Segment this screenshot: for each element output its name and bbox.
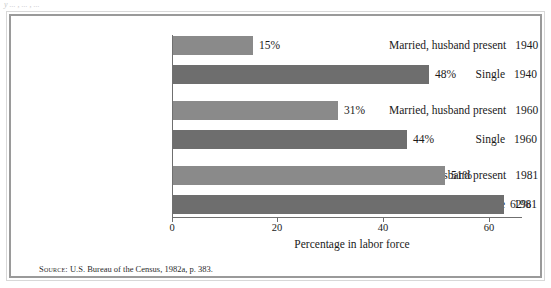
bar-single-1940 — [173, 65, 429, 84]
bar-value-married-1960: 31% — [338, 101, 365, 120]
top-edge-bleed-text: y ... , ... , ... — [0, 0, 200, 9]
x-tick-label-40: 40 — [368, 222, 398, 234]
table-row: Married, husband present1960 31% — [11, 101, 540, 120]
row-year-label: 1940 — [515, 36, 541, 55]
table-row: Single1981 62% — [11, 195, 540, 214]
row-year-label: 1940 — [514, 65, 540, 84]
source-label: Source: — [39, 264, 68, 274]
x-axis-title: Percentage in labor force — [207, 238, 497, 250]
figure-frame: Married, husband present1940 15% Single1… — [6, 11, 545, 281]
table-row: Single1960 44% — [11, 130, 540, 149]
bar-married-1981 — [173, 166, 445, 185]
row-label: Married, husband present1940 — [389, 36, 540, 55]
source-citation: U.S. Bureau of the Census, 1982a, p. 383… — [70, 264, 213, 274]
x-tick-label-0: 0 — [157, 222, 187, 234]
bar-value-single-1940: 48% — [429, 65, 456, 84]
source-note: Source: U.S. Bureau of the Census, 1982a… — [39, 264, 213, 274]
y-axis-line — [172, 35, 173, 217]
x-axis-line — [172, 217, 522, 218]
row-category-label: Married, husband present — [389, 101, 506, 120]
row-year-label: 1960 — [515, 101, 541, 120]
bar-single-1981 — [173, 195, 504, 214]
row-label: Married, husband present1960 — [389, 101, 540, 120]
figure-frame-inner: Married, husband present1940 15% Single1… — [9, 14, 542, 278]
row-category-label: Single — [476, 130, 505, 149]
bar-value-married-1981: 51% — [445, 166, 472, 185]
bar-married-1940 — [173, 36, 253, 55]
row-year-label: 1981 — [515, 166, 541, 185]
table-row: Married, husband present1981 51% — [11, 166, 540, 185]
table-row: Single1940 48% — [11, 65, 540, 84]
bar-value-married-1940: 15% — [253, 36, 280, 55]
row-year-label: 1960 — [514, 130, 540, 149]
row-category-label: Single — [476, 65, 505, 84]
bar-married-1960 — [173, 101, 338, 120]
bar-chart-plot: Married, husband present1940 15% Single1… — [11, 16, 540, 276]
row-category-label: Married, husband present — [389, 36, 506, 55]
x-tick-label-60: 60 — [474, 222, 504, 234]
bar-single-1960 — [173, 130, 407, 149]
bar-value-single-1960: 44% — [407, 130, 434, 149]
table-row: Married, husband present1940 15% — [11, 36, 540, 55]
bar-value-single-1981: 62% — [504, 195, 531, 214]
x-tick-label-20: 20 — [262, 222, 292, 234]
